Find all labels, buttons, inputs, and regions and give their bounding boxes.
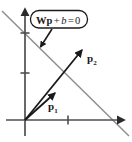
vector-p2-subscript: 2 <box>93 59 97 67</box>
callout-term-zero: 0 <box>75 15 80 26</box>
callout-term-w: W <box>36 15 47 26</box>
vector-p1-subscript: 1 <box>54 107 58 115</box>
callout-operator-plus: + <box>54 15 60 26</box>
figure-canvas: Wp+b=0 p1 p2 <box>0 0 132 142</box>
callout-pointer-arrow <box>41 29 53 47</box>
vector-p2-label: p2 <box>87 52 97 67</box>
vector-p1-label: p1 <box>48 100 58 115</box>
callout-equation: Wp+b=0 <box>36 15 80 26</box>
perceptron-decision-boundary-figure: Wp+b=0 p1 p2 <box>0 0 132 142</box>
callout-operator-equals: = <box>68 15 74 26</box>
callout-term-p: p <box>47 15 53 26</box>
callout-term-b: b <box>61 15 66 26</box>
